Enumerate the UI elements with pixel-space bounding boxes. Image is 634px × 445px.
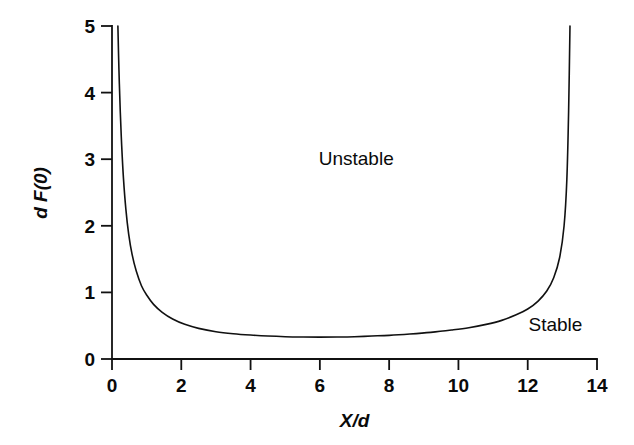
x-axis-tick-label: 0: [107, 376, 118, 395]
axis-lines: [112, 26, 597, 359]
x-axis-tick-label: 10: [448, 376, 469, 395]
y-axis-tick-label: 5: [84, 17, 95, 36]
y-axis-ticks: [101, 26, 112, 359]
y-axis-tick-label: 3: [84, 150, 95, 169]
x-axis-tick-label: 8: [384, 376, 395, 395]
region-label-unstable: Unstable: [319, 148, 394, 167]
y-axis-tick-label: 2: [84, 216, 95, 235]
x-axis-tick-label: 14: [586, 376, 607, 395]
x-axis-tick-label: 4: [245, 376, 256, 395]
y-axis-tick-label: 4: [84, 83, 95, 102]
region-label-stable: Stable: [528, 315, 582, 334]
y-axis-tick-label: 0: [84, 350, 95, 369]
x-axis-tick-label: 6: [315, 376, 326, 395]
y-axis-tick-label: 1: [84, 283, 95, 302]
y-axis-title: d F(0): [31, 167, 50, 219]
x-axis-title: X/d: [340, 411, 370, 430]
x-axis-ticks: [112, 359, 597, 370]
x-axis-tick-label: 2: [176, 376, 187, 395]
stability-chart-figure: 02468101214 012345 X/d d F(0) UnstableSt…: [0, 0, 634, 445]
stability-boundary-curve: [118, 26, 570, 337]
x-axis-tick-label: 12: [517, 376, 538, 395]
